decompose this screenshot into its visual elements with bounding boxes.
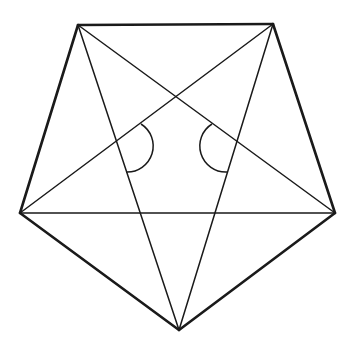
- pentagon-diagram: [0, 0, 354, 360]
- diagonal-top_right-left: [20, 24, 273, 213]
- diagonal-top_left-right: [78, 25, 335, 213]
- edge-top_left-top_right: [78, 24, 273, 25]
- edge-bottom-left: [20, 213, 179, 330]
- diagonal-top_right-bottom: [179, 24, 273, 330]
- edge-right-bottom: [179, 213, 335, 330]
- diagonal-top_left-bottom: [78, 25, 179, 330]
- edge-top_right-right: [273, 24, 335, 213]
- edge-left-top_left: [20, 25, 78, 213]
- angle-arcs: [126, 124, 227, 172]
